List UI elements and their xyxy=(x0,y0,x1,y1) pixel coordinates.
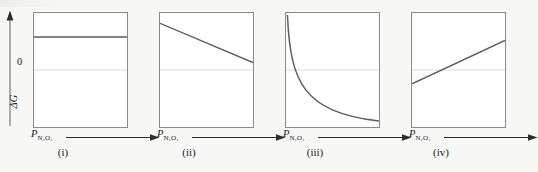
x-axis-label-subscript: N₂O₄ xyxy=(415,134,430,142)
x-axis-label-ii: PN₂O₄ xyxy=(157,128,178,139)
panel-ii: PN₂O₄ (ii) xyxy=(126,0,252,172)
x-axis-arrow-icon xyxy=(444,133,538,142)
panel-caption-iii: (iii) xyxy=(252,146,378,158)
curve-exponential-decay xyxy=(287,15,379,121)
panel-caption-iv: (iv) xyxy=(378,146,504,158)
y-axis-label: ΔG xyxy=(8,85,19,119)
plot-area-iv xyxy=(411,12,506,128)
x-axis-group-iii: PN₂O₄ xyxy=(283,128,378,144)
x-axis-group-ii: PN₂O₄ xyxy=(157,128,252,144)
curve-linear-decreasing xyxy=(160,23,253,62)
plot-curve-i xyxy=(34,13,127,127)
plot-curve-iv xyxy=(412,13,505,127)
x-axis-label-iii: PN₂O₄ xyxy=(283,128,304,139)
y-axis-zero-tick-label: 0 xyxy=(17,57,22,68)
plot-area-ii xyxy=(159,12,254,128)
x-axis-group-i: PN₂O₄ xyxy=(31,128,126,144)
x-axis-group-iv: PN₂O₄ xyxy=(409,128,504,144)
panel-caption-i: (i) xyxy=(0,146,126,158)
plot-area-iii xyxy=(285,12,380,128)
plot-area-i xyxy=(33,12,128,128)
y-axis-group: ΔG xyxy=(0,10,33,130)
x-axis-label-iv: PN₂O₄ xyxy=(409,128,430,139)
x-axis-label-i: PN₂O₄ xyxy=(31,128,52,139)
panel-caption-ii: (ii) xyxy=(126,146,252,158)
panel-iv: PN₂O₄ (iv) xyxy=(378,0,504,172)
x-axis-label-subscript: N₂O₄ xyxy=(37,134,52,142)
x-axis-label-subscript: N₂O₄ xyxy=(289,134,304,142)
panel-iii: PN₂O₄ (iii) xyxy=(252,0,378,172)
x-axis-label-subscript: N₂O₄ xyxy=(163,134,178,142)
curve-linear-increasing xyxy=(412,41,505,84)
panel-i: ΔG 0 PN₂O₄ (i) xyxy=(0,0,126,172)
plot-curve-iii xyxy=(286,13,379,127)
plot-curve-ii xyxy=(160,13,253,127)
